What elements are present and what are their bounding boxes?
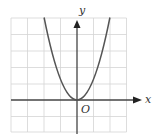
grid: [11, 18, 127, 132]
x-axis-label: x: [145, 93, 152, 106]
coordinate-plane: x y O: [0, 0, 154, 135]
x-axis-arrow-icon: [133, 97, 142, 104]
y-axis-label: y: [78, 4, 86, 17]
origin-label: O: [81, 103, 90, 116]
y-axis-arrow-icon: [74, 20, 81, 28]
